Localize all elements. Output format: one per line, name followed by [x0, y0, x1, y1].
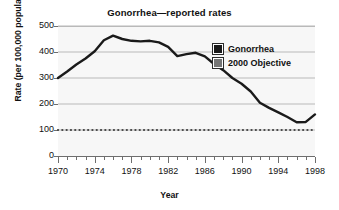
x-tick-minor: [150, 157, 151, 160]
y-tick-label: 500: [20, 20, 54, 30]
legend-label: Gonorrhea: [228, 44, 274, 54]
x-tick-minor: [251, 157, 252, 160]
legend-swatch-icon: [213, 44, 223, 54]
x-tick-minor: [159, 157, 160, 160]
x-tick-major: [242, 157, 243, 163]
x-tick-minor: [141, 157, 142, 160]
x-tick-minor: [67, 157, 68, 160]
x-tick-minor: [260, 157, 261, 160]
x-tick-minor: [104, 157, 105, 160]
x-tick-label: 1978: [111, 166, 151, 176]
x-tick-label: 1982: [148, 166, 188, 176]
x-tick-minor: [177, 157, 178, 160]
x-tick-major: [58, 157, 59, 163]
x-tick-minor: [287, 157, 288, 160]
x-tick-label: 1974: [75, 166, 115, 176]
x-tick-label: 1990: [222, 166, 262, 176]
y-tick-label: 100: [20, 124, 54, 134]
x-tick-major: [315, 157, 316, 163]
x-tick-minor: [113, 157, 114, 160]
chart-title: Gonorrhea—reported rates: [0, 7, 339, 18]
x-tick-major: [205, 157, 206, 163]
chart-legend: Gonorrhea2000 Objective: [213, 44, 291, 72]
x-tick-minor: [297, 157, 298, 160]
x-tick-label: 1970: [38, 166, 78, 176]
y-tick-label: 0: [20, 150, 54, 160]
x-axis-title: Year: [0, 190, 339, 200]
chart-container: Gonorrhea—reported rates Rate (per 100,0…: [0, 0, 339, 210]
x-tick-minor: [223, 157, 224, 160]
x-tick-minor: [122, 157, 123, 160]
x-tick-minor: [306, 157, 307, 160]
x-tick-minor: [232, 157, 233, 160]
x-tick-minor: [76, 157, 77, 160]
y-tick-label: 300: [20, 72, 54, 82]
legend-label: 2000 Objective: [228, 58, 291, 68]
x-tick-major: [95, 157, 96, 163]
y-tick-label: 400: [20, 46, 54, 56]
x-tick-label: 1986: [185, 166, 225, 176]
x-tick-minor: [196, 157, 197, 160]
legend-item: Gonorrhea: [213, 44, 291, 54]
x-tick-minor: [187, 157, 188, 160]
legend-swatch-icon: [213, 58, 223, 68]
x-tick-label: 1994: [258, 166, 298, 176]
x-tick-minor: [269, 157, 270, 160]
legend-item: 2000 Objective: [213, 58, 291, 68]
x-tick-minor: [214, 157, 215, 160]
x-tick-major: [168, 157, 169, 163]
y-tick-label: 200: [20, 98, 54, 108]
y-axis-ticks: 0100200300400500: [18, 26, 54, 156]
x-tick-label: 1998: [295, 166, 335, 176]
x-tick-minor: [86, 157, 87, 160]
x-tick-major: [131, 157, 132, 163]
x-axis-ticks: [58, 157, 315, 165]
x-tick-major: [278, 157, 279, 163]
gridlines: [58, 26, 315, 130]
